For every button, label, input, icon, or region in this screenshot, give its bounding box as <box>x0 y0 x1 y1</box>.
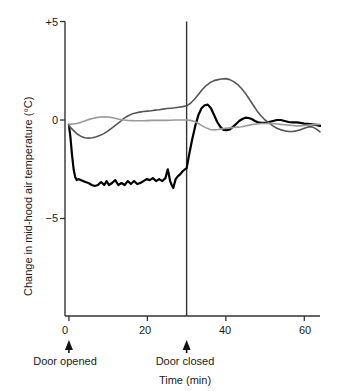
x-axis-title: Time (min) <box>125 374 245 386</box>
chart-canvas <box>0 0 339 391</box>
door-closed-label: Door closed <box>137 355 233 367</box>
x-tick-label-2: 40 <box>213 324 237 336</box>
x-tick-label-1: 20 <box>133 324 157 336</box>
y-tick-label-0: +5 <box>36 16 58 28</box>
door-opened-label: Door opened <box>17 355 113 367</box>
x-tick-label-0: 0 <box>53 324 77 336</box>
x-tick-label-3: 60 <box>293 324 317 336</box>
y-tick-label-1: 0 <box>36 114 58 126</box>
y-tick-label-2: −5 <box>34 212 58 224</box>
chart-figure: +5 0 −5 0 20 40 60 Door opened Door clos… <box>0 0 339 391</box>
y-axis-title: Change in mid-hood air temperature (°C) <box>22 97 34 296</box>
